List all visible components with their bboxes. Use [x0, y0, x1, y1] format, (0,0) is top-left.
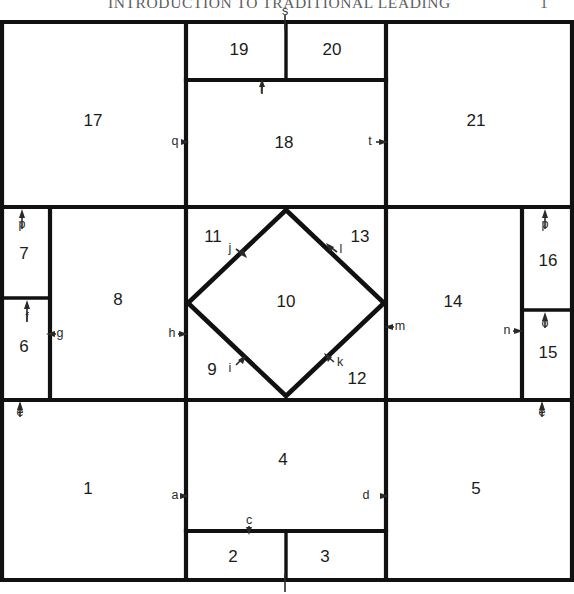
cell-number-layer: 1 2 3 4 5 6 7 8 9 10 11 12 13 14 15 16 1… [19, 40, 557, 566]
label-r: r [260, 82, 264, 96]
cell-17: 17 [84, 111, 103, 130]
cell-4: 4 [278, 450, 287, 469]
label-m: m [395, 319, 405, 333]
label-l: l [340, 242, 343, 256]
label-e-left: e [17, 405, 24, 419]
label-j: j [228, 241, 232, 255]
label-q: q [172, 134, 179, 148]
diagram-svg: 1 2 3 4 5 6 7 8 9 10 11 12 13 14 15 16 1… [0, 0, 574, 594]
cell-7: 7 [19, 244, 28, 263]
cell-19: 19 [230, 40, 249, 59]
label-o: o [542, 316, 549, 330]
cell-8: 8 [113, 290, 122, 309]
bottom-band-lines [186, 400, 386, 580]
label-k: k [337, 355, 344, 369]
cell-21: 21 [467, 111, 486, 130]
label-s: s [282, 4, 288, 18]
label-p-right: p [542, 217, 549, 231]
cell-15: 15 [539, 343, 558, 362]
cell-6: 6 [19, 337, 28, 356]
cell-11: 11 [204, 227, 222, 246]
cell-13: 13 [351, 227, 370, 246]
chart-diagram: 1 2 3 4 5 6 7 8 9 10 11 12 13 14 15 16 1… [0, 0, 574, 594]
label-e-right: e [539, 405, 546, 419]
label-g: g [57, 326, 64, 340]
label-t: t [368, 134, 372, 148]
cell-18: 18 [275, 133, 294, 152]
label-i: i [229, 361, 232, 375]
cell-2: 2 [228, 547, 237, 566]
label-n: n [504, 323, 511, 337]
cell-5: 5 [471, 479, 480, 498]
cell-20: 20 [323, 40, 342, 59]
cell-14: 14 [444, 292, 463, 311]
cell-16: 16 [539, 251, 558, 270]
cell-1: 1 [83, 479, 92, 498]
top-band-lines [186, 22, 386, 207]
label-f: f [25, 310, 29, 324]
label-a: a [172, 488, 179, 502]
cell-10: 10 [277, 292, 296, 311]
label-h: h [169, 326, 176, 340]
edge-label-layer: a c d e e f g h i j k l m n o p p q r s … [17, 4, 549, 527]
cell-12: 12 [348, 369, 367, 388]
cell-9: 9 [207, 360, 216, 379]
label-c: c [246, 513, 252, 527]
label-d: d [363, 488, 370, 502]
label-p-left: p [19, 217, 26, 231]
cell-3: 3 [320, 547, 329, 566]
